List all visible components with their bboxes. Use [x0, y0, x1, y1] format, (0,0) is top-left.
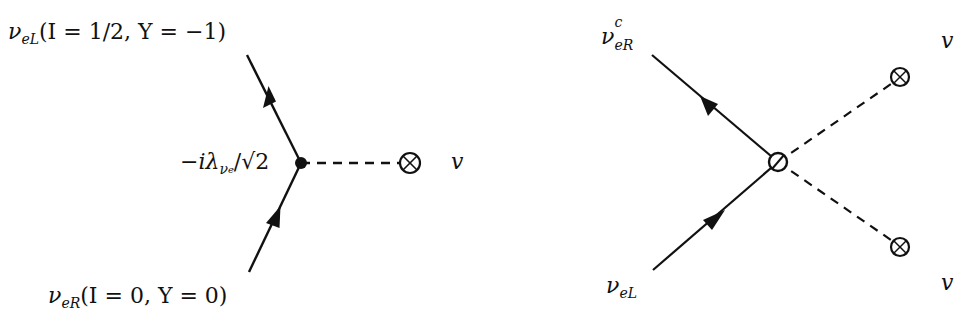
- label-nu-eR-conjugate: νceR: [601, 26, 633, 49]
- feynman-diagrams: [0, 0, 973, 319]
- particle-superscript: c: [614, 15, 622, 29]
- label-nu-eL-right: νeL: [606, 275, 637, 297]
- arrow-icon: [266, 206, 281, 228]
- particle-subscript: eL: [21, 31, 39, 47]
- label-vev-lower: v: [941, 272, 953, 294]
- scalar-dashed-line-lower: [778, 162, 891, 240]
- arrow-icon: [703, 210, 725, 230]
- coupling-factor: /√2: [234, 149, 269, 174]
- fermion-line-nu-eR-c: [652, 55, 778, 162]
- scalar-dashed-line-upper: [778, 84, 891, 162]
- vev-insertion-icon: [400, 153, 420, 173]
- vertex-dot-icon: [295, 157, 307, 169]
- label-vev: v: [451, 151, 463, 173]
- label-vertex-coupling: −iλνe/√2: [180, 151, 269, 173]
- quantum-numbers: (I = 1/2, Y = −1): [39, 19, 226, 44]
- quantum-numbers: (I = 0, Y = 0): [80, 283, 227, 308]
- particle-subscript: eR: [61, 295, 80, 311]
- coupling-symbol: −iλ: [180, 149, 219, 174]
- particle-symbol: ν: [606, 273, 619, 298]
- coupling-subsubscript: e: [228, 164, 234, 175]
- particle-symbol: ν: [8, 19, 21, 44]
- vev-insertion-icon-upper: [891, 68, 909, 86]
- arrow-icon: [700, 96, 718, 116]
- particle-subscript: eL: [619, 285, 637, 301]
- particle-symbol: ν: [601, 24, 614, 49]
- coupling-subscript: ν: [219, 161, 228, 177]
- particle-subscript: eR: [614, 37, 633, 53]
- effective-vertex-icon: [769, 153, 787, 171]
- label-vev-upper: v: [941, 30, 953, 52]
- right-diagram: [652, 55, 909, 270]
- vev-insertion-icon-lower: [891, 238, 909, 256]
- sup-sub-stack: ceR: [614, 27, 633, 49]
- left-diagram: [247, 55, 420, 272]
- label-nu-eR: νeR(I = 0, Y = 0): [48, 285, 227, 307]
- label-nu-eL: νeL(I = 1/2, Y = −1): [8, 21, 226, 43]
- fermion-line-nu-eL: [247, 55, 301, 163]
- particle-symbol: ν: [48, 283, 61, 308]
